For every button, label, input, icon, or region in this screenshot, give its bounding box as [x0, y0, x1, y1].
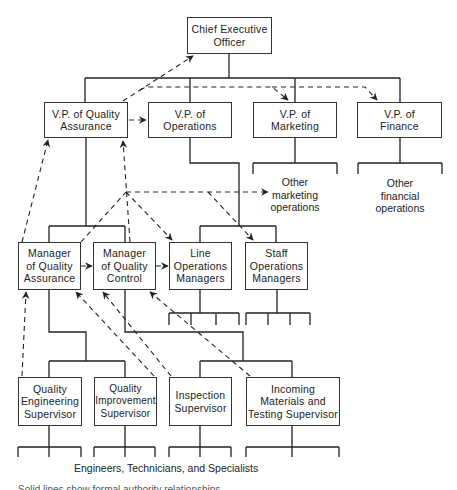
label-other-financial: Other financial operations [365, 177, 435, 215]
node-vp-marketing: V.P. of Marketing [253, 102, 337, 138]
node-staff-operations-managers: Staff Operations Managers [245, 242, 308, 290]
node-manager-quality-assurance: Manager of Quality Assurance [18, 242, 81, 290]
legend-cut-text: Solid lines show formal authority relati… [18, 484, 220, 490]
caption-engineers-technicians: Engineers, Technicians, and Specialists [74, 462, 258, 474]
label-other-marketing: Other marketing operations [260, 176, 330, 214]
node-quality-improvement-supervisor: Quality Improvement Supervisor [94, 377, 157, 426]
node-quality-engineering-supervisor: Quality Engineering Supervisor [18, 377, 82, 426]
node-ceo: Chief Executive Officer [187, 17, 272, 54]
node-manager-quality-control: Manager of Quality Control [93, 242, 156, 290]
node-vp-operations: V.P. of Operations [148, 102, 232, 138]
node-incoming-materials-testing-supervisor: Incoming Materials and Testing Superviso… [246, 377, 340, 426]
node-inspection-supervisor: Inspection Supervisor [169, 377, 232, 426]
node-line-operations-managers: Line Operations Managers [169, 242, 232, 290]
node-vp-quality-assurance: V.P. of Quality Assurance [44, 102, 128, 138]
node-vp-finance: V.P. of Finance [357, 102, 442, 138]
